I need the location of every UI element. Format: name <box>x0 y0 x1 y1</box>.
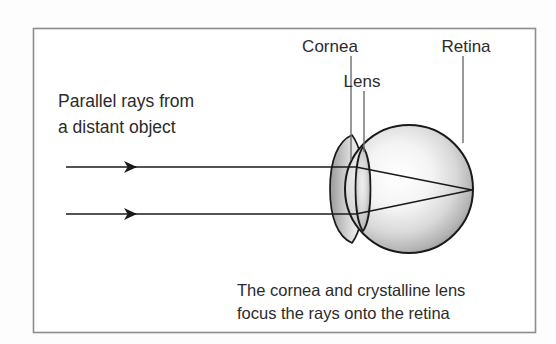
crystalline-lens <box>356 147 371 231</box>
figure-root: Cornea Lens Retina Parallel rays from a … <box>0 0 556 344</box>
retina-label: Retina <box>441 37 491 56</box>
source-text-line2: a distant object <box>58 117 176 137</box>
eye-optics-diagram: Cornea Lens Retina Parallel rays from a … <box>0 0 556 344</box>
caption-line2: focus the rays onto the retina <box>237 304 451 322</box>
cornea-label: Cornea <box>302 37 358 56</box>
lens-label: Lens <box>344 72 381 91</box>
source-text-line1: Parallel rays from <box>58 91 194 111</box>
caption-line1: The cornea and crystalline lens <box>237 281 465 299</box>
